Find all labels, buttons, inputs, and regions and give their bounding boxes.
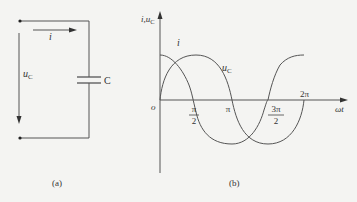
arrow-head-icon: [17, 116, 22, 124]
terminal-dot: [18, 19, 21, 22]
y-axis-label: i,uC: [141, 14, 155, 25]
voltage-label: uC: [23, 68, 33, 81]
curve-i-label: i: [177, 37, 180, 48]
current-label: i: [49, 31, 52, 42]
svg-text:2: 2: [274, 116, 279, 126]
tick-three-half-pi: 3π 2: [268, 104, 284, 126]
capacitor-label: C: [104, 75, 111, 86]
figure-b-caption: (b): [229, 178, 240, 188]
svg-text:3π: 3π: [271, 104, 281, 114]
tick-half-pi: π 2: [189, 104, 199, 126]
arrow-head-icon: [158, 11, 163, 19]
svg-text:π: π: [192, 104, 197, 114]
tick-pi: π: [226, 104, 231, 114]
origin-label: o: [151, 102, 156, 112]
terminal-dot: [18, 136, 21, 139]
circuit-wire: [20, 21, 89, 77]
waveform-graph: [158, 11, 349, 173]
svg-text:2: 2: [192, 116, 197, 126]
x-axis-label: ωt: [335, 104, 344, 114]
figure-a-caption: (a): [52, 178, 62, 188]
circuit-wire: [20, 83, 89, 138]
tick-two-pi: 2π: [300, 89, 310, 99]
arrow-head-icon: [69, 28, 77, 33]
curve-i-tail: [268, 55, 304, 100]
figure-canvas: i uC C (a) i,uC ωt o i uC π 2 π 3π 2 2π …: [0, 0, 357, 202]
arrow-head-icon: [340, 98, 348, 103]
